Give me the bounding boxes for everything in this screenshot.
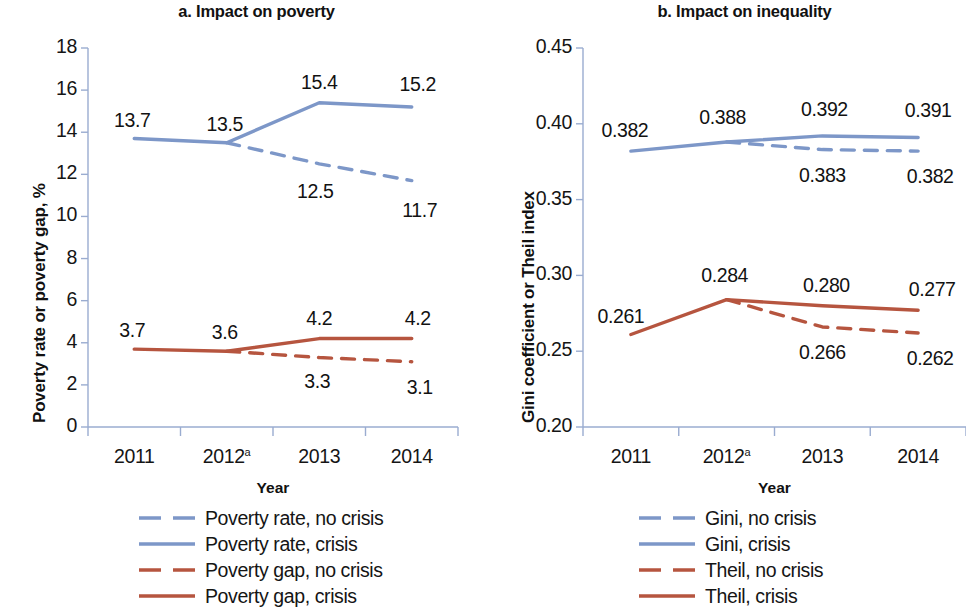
y-tick-label: 10 xyxy=(56,203,77,226)
x-tick-label: 2013 xyxy=(273,445,366,468)
y-tick-label: 8 xyxy=(67,246,77,269)
dashed-line-icon xyxy=(138,509,196,527)
y-tick-label: 0.20 xyxy=(536,414,572,437)
figure-impact-on-poverty-and-inequality: a. Impact on poverty Poverty rate or pov… xyxy=(0,0,966,615)
data-point-label: 0.383 xyxy=(782,164,862,187)
data-point-label: 3.7 xyxy=(92,319,172,342)
legend-label: Poverty gap, no crisis xyxy=(205,559,383,582)
series-line xyxy=(227,143,412,181)
dashed-line-icon xyxy=(138,561,196,579)
series-line xyxy=(727,142,919,151)
footnote-marker-a: a xyxy=(744,446,750,458)
legend-panel-b: Gini, no crisisGini, crisisTheil, no cri… xyxy=(483,505,966,615)
y-tick-label: 0.40 xyxy=(536,111,572,134)
y-tick-label: 2 xyxy=(67,372,77,395)
legend-item[interactable]: Theil, crisis xyxy=(638,583,823,609)
legend-label: Poverty gap, crisis xyxy=(205,585,357,608)
data-point-label: 15.2 xyxy=(378,73,458,96)
y-tick-label: 0.35 xyxy=(536,187,572,210)
x-tick-label: 2011 xyxy=(583,445,679,468)
data-point-label: 3.3 xyxy=(277,370,357,393)
data-point-label: 0.280 xyxy=(786,274,866,297)
solid-line-icon xyxy=(638,587,696,605)
data-point-label: 4.2 xyxy=(279,307,359,330)
legend-label: Theil, crisis xyxy=(705,585,797,608)
x-tick-label: 2013 xyxy=(775,445,871,468)
data-point-label: 15.4 xyxy=(279,71,359,94)
legend-label: Gini, crisis xyxy=(705,533,790,556)
data-point-label: 0.388 xyxy=(683,106,763,129)
y-tick-label: 14 xyxy=(56,119,77,142)
chart-panel-a: a. Impact on poverty Poverty rate or pov… xyxy=(0,0,483,500)
solid-line-icon xyxy=(638,535,696,553)
y-tick-label: 0 xyxy=(67,414,77,437)
y-tick-label: 0.25 xyxy=(536,338,572,361)
data-point-label: 0.277 xyxy=(892,278,966,301)
series-line xyxy=(134,339,412,352)
chart-panel-b: b. Impact on inequality Gini coefficient… xyxy=(483,0,966,500)
legend-label: Theil, no crisis xyxy=(705,559,823,582)
dashed-line-icon xyxy=(638,561,696,579)
data-point-label: 3.6 xyxy=(185,321,265,344)
data-point-label: 4.2 xyxy=(378,307,458,330)
solid-line-icon xyxy=(138,535,196,553)
data-point-label: 12.5 xyxy=(275,180,355,203)
legend-item[interactable]: Poverty gap, crisis xyxy=(138,583,383,609)
data-point-label: 0.382 xyxy=(890,165,966,188)
legend-item[interactable]: Poverty rate, crisis xyxy=(138,531,383,557)
y-tick-label: 12 xyxy=(56,161,77,184)
data-point-label: 0.261 xyxy=(581,305,661,328)
y-tick-label: 0.30 xyxy=(536,262,572,285)
footnote-marker-a: a xyxy=(245,446,251,458)
series-line xyxy=(227,351,412,362)
data-point-label: 0.382 xyxy=(585,119,665,142)
y-tick-label: 4 xyxy=(67,330,77,353)
data-point-label: 13.7 xyxy=(92,109,172,132)
data-point-label: 0.392 xyxy=(784,98,864,121)
x-tick-label: 2014 xyxy=(870,445,966,468)
legend-item[interactable]: Poverty rate, no crisis xyxy=(138,505,383,531)
y-tick-label: 16 xyxy=(56,77,77,100)
y-tick-label: 6 xyxy=(67,288,77,311)
x-tick-label: 2014 xyxy=(366,445,459,468)
x-tick-label: 2012a xyxy=(181,445,274,468)
data-point-label: 0.266 xyxy=(782,341,862,364)
y-tick-label: 0.45 xyxy=(536,35,572,58)
legend-label: Gini, no crisis xyxy=(705,507,816,530)
y-tick-label: 18 xyxy=(56,35,77,58)
x-tick-label: 2011 xyxy=(88,445,181,468)
legend-label: Poverty rate, crisis xyxy=(205,533,357,556)
data-point-label: 0.262 xyxy=(890,347,966,370)
data-point-label: 0.391 xyxy=(888,99,966,122)
legend-item[interactable]: Gini, no crisis xyxy=(638,505,823,531)
legend-panel-a: Poverty rate, no crisisPoverty rate, cri… xyxy=(0,505,483,615)
x-tick-label: 2012a xyxy=(679,445,775,468)
dashed-line-icon xyxy=(638,509,696,527)
legend-item[interactable]: Gini, crisis xyxy=(638,531,823,557)
series-line xyxy=(134,103,412,143)
data-point-label: 3.1 xyxy=(380,376,460,399)
data-point-label: 11.7 xyxy=(380,199,460,222)
legend-item[interactable]: Poverty gap, no crisis xyxy=(138,557,383,583)
legend-label: Poverty rate, no crisis xyxy=(205,507,383,530)
data-point-label: 0.284 xyxy=(685,264,765,287)
legend-item[interactable]: Theil, no crisis xyxy=(638,557,823,583)
data-point-label: 13.5 xyxy=(185,113,265,136)
solid-line-icon xyxy=(138,587,196,605)
